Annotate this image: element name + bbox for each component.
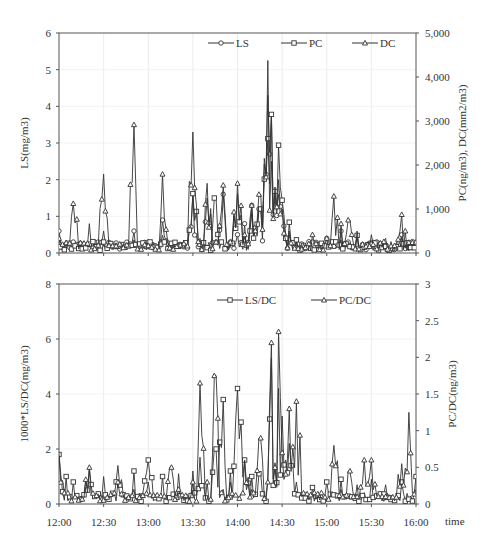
y2-tick-label: 3,000 (425, 115, 450, 127)
y-tick-label: 2 (46, 443, 52, 455)
y2-tick-label: 1 (425, 425, 431, 437)
legend-item: PC (309, 37, 322, 49)
y-tick-label: 5 (46, 64, 52, 76)
x-tick-label: 12:30 (91, 516, 117, 528)
y2-tick-label: 1.5 (425, 388, 439, 400)
y2-tick-label: 2 (425, 351, 431, 363)
x-tick-label: 13:00 (136, 516, 162, 528)
legend-item: PC/DC (339, 294, 371, 306)
y2-tick-label: 2.5 (425, 315, 439, 327)
y-tick-label: 3 (46, 137, 52, 149)
y-tick-label: 1 (46, 210, 52, 222)
y2-tick-label: 0.5 (425, 461, 439, 473)
x-tick-label: 16:00 (403, 516, 429, 528)
y-axis-label: 1000*LS/DC(mg/m3) (18, 345, 31, 443)
x-axis-label: time (445, 515, 465, 527)
y2-tick-label: 3 (425, 278, 431, 290)
y2-axis-label: PC(ng/m3), DC(mm2/m3) (456, 84, 469, 201)
y-tick-label: 6 (46, 333, 52, 345)
y2-tick-label: 5,000 (425, 27, 450, 39)
x-tick-label: 14:30 (270, 516, 296, 528)
y2-axis-label: PC/DC(ng/m3) (446, 360, 459, 428)
top-chart: 012345601,0002,0003,0004,0005,000LS(mg/m… (18, 27, 469, 259)
legend-item: LS (236, 37, 249, 49)
y-axis-label: LS(mg/m3) (18, 117, 31, 169)
x-tick-label: 15:30 (359, 516, 385, 528)
y2-tick-label: 1,000 (425, 203, 450, 215)
bottom-chart: 0246800.511.522.531000*LS/DC(mg/m3)PC/DC… (18, 278, 465, 528)
x-tick-label: 12:00 (46, 516, 72, 528)
y-tick-label: 8 (46, 278, 52, 290)
legend: LS/DCPC/DC (217, 294, 371, 306)
y-tick-label: 0 (46, 498, 52, 510)
x-tick-label: 15:00 (314, 516, 340, 528)
y-tick-label: 4 (46, 100, 52, 112)
y2-tick-label: 2,000 (425, 159, 450, 171)
y-tick-label: 0 (46, 247, 52, 259)
x-tick-label: 13:30 (180, 516, 206, 528)
y2-tick-label: 4,000 (425, 71, 450, 83)
y2-tick-label: 0 (425, 498, 431, 510)
y-tick-label: 6 (46, 27, 52, 39)
y2-tick-label: 0 (425, 247, 431, 259)
legend-item: DC (380, 37, 395, 49)
y-tick-label: 2 (46, 174, 52, 186)
legend-item: LS/DC (245, 294, 276, 306)
chart-figure: 012345601,0002,0003,0004,0005,000LS(mg/m… (0, 0, 492, 546)
x-tick-label: 14:00 (225, 516, 251, 528)
legend: LSPCDC (208, 37, 395, 49)
y-tick-label: 4 (46, 388, 52, 400)
